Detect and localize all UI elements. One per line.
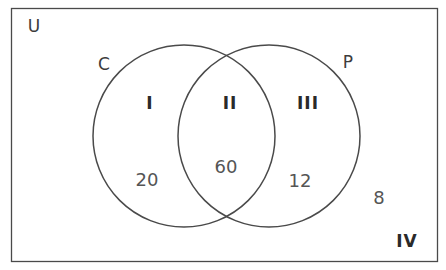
region-iii-count: 12 [289, 172, 312, 190]
universe-label: U [28, 18, 40, 35]
region-i-label: I [146, 95, 153, 112]
region-iv-label: IV [396, 233, 417, 250]
universe-rectangle [12, 9, 438, 262]
set-p-label: P [343, 54, 353, 71]
set-c-label: C [98, 56, 110, 73]
region-i-count: 20 [136, 171, 159, 189]
set-p-circle [178, 45, 360, 227]
region-ii-count: 60 [215, 158, 238, 176]
region-iii-label: III [297, 95, 319, 112]
set-c-circle [93, 45, 275, 227]
region-iv-count: 8 [373, 189, 384, 207]
venn-diagram-canvas [0, 0, 446, 270]
region-ii-label: II [223, 95, 238, 112]
